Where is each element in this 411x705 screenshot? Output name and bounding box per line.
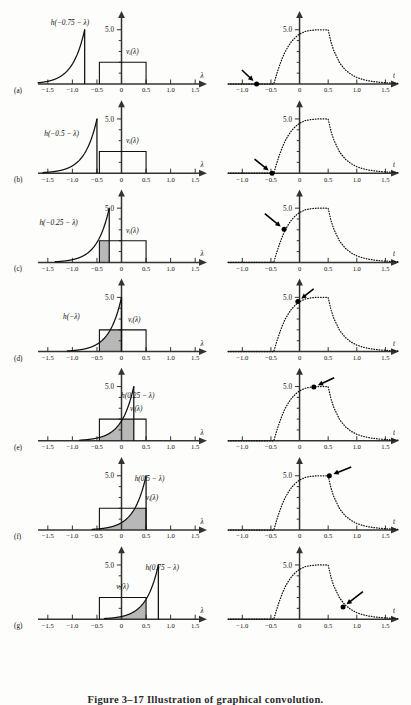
left-g-x-tick-label: −1.0 <box>66 622 79 629</box>
row-label-c: (c) <box>14 265 23 273</box>
impulse-response-label-d: h(−λ) <box>63 312 80 321</box>
left-f-x-tick-label: −1.0 <box>66 532 79 539</box>
left-g-x-tick-label: −1.5 <box>42 622 55 629</box>
right-e-x-tick-label: 1.0 <box>353 443 362 450</box>
right-g-x-axis-label: t <box>393 607 396 615</box>
right-f-x-tick-label: 1.5 <box>381 532 390 539</box>
right-e-x-tick-label: 0.5 <box>324 443 333 450</box>
left-f-x-axis-arrow <box>199 527 207 534</box>
right-c-x-tick-label: −1.0 <box>236 265 249 272</box>
rect-pulse-label-f: vᵢ(λ) <box>146 493 159 502</box>
right-g-x-tick-label: 0 <box>298 622 302 629</box>
row-label-e: (e) <box>14 444 23 452</box>
left-f-x-tick-label: 0.5 <box>142 532 151 539</box>
left-a-x-tick-label: −1.5 <box>42 86 55 93</box>
right-c-x-tick-label: −0.5 <box>265 265 278 272</box>
impulse-response-curve-a <box>38 30 85 83</box>
left-b-x-axis-label: λ <box>199 161 203 169</box>
overlap-shaded-region-f <box>99 508 146 530</box>
plot-row-c: (c)λ−1.5−1.0−0.500.51.01.55.0vᵢ(λ)h(−0.2… <box>14 189 399 273</box>
right-g-x-tick-label: 1.0 <box>353 622 362 629</box>
right-c-y-axis-arrow <box>296 189 303 196</box>
row-label-d: (d) <box>14 355 23 363</box>
right-f-x-tick-label: 0 <box>298 532 302 539</box>
left-d-x-axis-label: λ <box>199 340 203 348</box>
right-a-x-tick-label: 1.5 <box>381 86 390 93</box>
left-c-x-tick-label: −0.5 <box>91 265 104 272</box>
convolution-result-curve-g <box>228 565 398 619</box>
left-f-x-tick-label: −0.5 <box>91 532 104 539</box>
row-label-f: (f) <box>14 533 22 541</box>
right-c-x-tick-label: 0 <box>298 265 302 272</box>
pointer-arrow-shaft-e <box>321 378 334 384</box>
left-e-y-value-label: 5.0 <box>105 383 114 391</box>
right-a-y-value-label: 5.0 <box>283 26 292 34</box>
left-panel-e: λ−1.5−1.0−0.500.51.01.55.0vᵢ(λ)h(0.25 − … <box>38 368 207 450</box>
left-c-x-tick-label: −1.5 <box>42 265 55 272</box>
rect-pulse-b <box>99 152 146 174</box>
left-b-x-tick-label: 0 <box>120 176 124 183</box>
left-f-x-tick-label: 0 <box>120 532 124 539</box>
impulse-response-curve-g <box>104 565 158 619</box>
impulse-response-label-f: h(0.5 − λ) <box>135 474 165 483</box>
right-b-x-axis-arrow <box>391 170 399 177</box>
rect-pulse-label-d: vᵢ(λ) <box>128 315 141 324</box>
left-b-y-axis-arrow <box>118 100 125 107</box>
left-e-x-tick-label: 0.5 <box>142 443 151 450</box>
right-g-x-tick-label: −1.0 <box>236 622 249 629</box>
left-g-x-tick-label: 1.0 <box>167 622 176 629</box>
current-value-marker-a <box>254 82 259 87</box>
left-e-y-axis-arrow <box>118 368 125 375</box>
overlap-shaded-region-c <box>99 241 109 263</box>
left-a-x-tick-label: −1.0 <box>66 86 79 93</box>
left-g-x-axis-arrow <box>199 616 207 623</box>
right-d-y-axis-arrow <box>296 279 303 286</box>
overlap-shaded-region-d <box>99 330 121 352</box>
left-b-x-tick-label: −1.5 <box>42 176 55 183</box>
left-a-x-tick-label: 0 <box>120 86 124 93</box>
right-c-x-tick-label: 1.5 <box>381 265 390 272</box>
right-a-x-axis-arrow <box>391 81 399 88</box>
plot-row-a: (a)λ−1.5−1.0−0.500.51.01.55.0vᵢ(λ)h(−0.7… <box>14 11 399 95</box>
current-value-marker-c <box>282 227 287 232</box>
right-g-y-value-label: 5.0 <box>283 562 292 570</box>
left-d-x-tick-label: 1.5 <box>191 354 200 361</box>
left-panel-d: λ−1.5−1.0−0.500.51.01.55.0vᵢ(λ)h(−λ) <box>38 279 207 361</box>
pointer-arrow-shaft-f <box>336 467 351 473</box>
right-d-x-axis-label: t <box>393 340 396 348</box>
right-panel-f: t−1.0−0.500.51.01.55.0 <box>228 457 399 539</box>
left-e-x-tick-label: 1.0 <box>167 443 176 450</box>
current-value-marker-e <box>311 385 316 390</box>
right-g-y-axis-arrow <box>296 546 303 553</box>
left-e-x-tick-label: 1.5 <box>191 443 200 450</box>
left-a-y-value-label: 5.0 <box>105 26 114 34</box>
plot-row-g: (g)λ−1.5−1.0−0.500.51.01.55.0vᵢ(λ)h(0.75… <box>14 546 399 630</box>
right-d-x-tick-label: 0.5 <box>324 354 333 361</box>
rect-pulse-label-a: vᵢ(λ) <box>126 47 139 56</box>
left-panel-a: λ−1.5−1.0−0.500.51.01.55.0vᵢ(λ)h(−0.75 −… <box>38 11 207 93</box>
left-d-x-tick-label: −1.5 <box>42 354 55 361</box>
left-c-y-axis-arrow <box>118 189 125 196</box>
left-d-x-tick-label: −0.5 <box>91 354 104 361</box>
left-panel-b: λ−1.5−1.0−0.500.51.01.55.0vᵢ(λ)h(−0.5 − … <box>38 100 207 182</box>
left-f-y-axis-arrow <box>118 457 125 464</box>
left-c-x-tick-label: −1.0 <box>66 265 79 272</box>
rect-pulse-label-g: vᵢ(λ) <box>116 582 129 591</box>
plot-row-b: (b)λ−1.5−1.0−0.500.51.01.55.0vᵢ(λ)h(−0.5… <box>14 100 399 184</box>
right-e-x-tick-label: 1.5 <box>381 443 390 450</box>
right-g-x-axis-arrow <box>391 616 399 623</box>
right-d-x-tick-label: −1.0 <box>236 354 249 361</box>
left-b-x-tick-label: −1.0 <box>66 176 79 183</box>
left-f-x-tick-label: 1.0 <box>167 532 176 539</box>
right-panel-a: t−1.0−0.500.51.01.55.0 <box>228 11 399 93</box>
left-d-x-tick-label: 0 <box>120 354 124 361</box>
pointer-arrow-shaft-g <box>349 592 363 603</box>
convolution-result-curve-a <box>228 30 398 84</box>
left-d-x-tick-label: 0.5 <box>142 354 151 361</box>
left-e-x-axis-label: λ <box>199 429 203 437</box>
left-b-x-tick-label: 0.5 <box>142 176 151 183</box>
right-panel-c: t−1.0−0.500.51.01.55.0 <box>228 189 399 271</box>
right-c-x-axis-label: t <box>393 250 396 258</box>
right-f-y-axis-arrow <box>296 457 303 464</box>
